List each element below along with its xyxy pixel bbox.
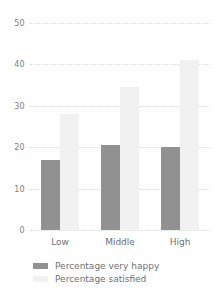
x-axis-category-label: High	[150, 237, 210, 247]
x-axis-category-label: Middle	[90, 237, 150, 247]
gridline	[30, 230, 210, 231]
legend-item: Percentage satisfied	[33, 272, 159, 285]
legend-label: Percentage satisfied	[55, 274, 146, 284]
bar	[120, 87, 139, 230]
bar-chart: 01020304050LowMiddleHigh Percentage very…	[0, 0, 220, 302]
bar	[180, 60, 199, 230]
legend-item: Percentage very happy	[33, 259, 159, 272]
y-axis-tick-label: 40	[14, 60, 25, 69]
y-axis-tick-label: 0	[20, 226, 25, 235]
legend-swatch-icon	[33, 263, 48, 269]
bar	[161, 147, 180, 230]
plot-area: 01020304050LowMiddleHigh	[30, 23, 210, 230]
legend-label: Percentage very happy	[55, 261, 159, 271]
x-axis-category-label: Low	[30, 237, 90, 247]
y-axis-tick-label: 10	[14, 184, 25, 193]
legend-swatch-icon	[33, 276, 48, 282]
bar	[101, 145, 120, 230]
y-axis-tick-label: 50	[14, 19, 25, 28]
chart-legend: Percentage very happyPercentage satisfie…	[33, 259, 159, 285]
bar	[41, 160, 60, 230]
y-axis-tick-label: 20	[14, 143, 25, 152]
bar-group: Low	[30, 23, 90, 230]
bar-group: High	[150, 23, 210, 230]
y-axis-tick-label: 30	[14, 101, 25, 110]
bar	[60, 114, 79, 230]
bar-group: Middle	[90, 23, 150, 230]
